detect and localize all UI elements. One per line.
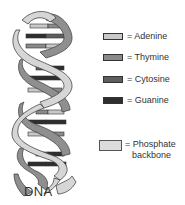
guanine-swatch bbox=[103, 97, 123, 104]
cytosine-swatch bbox=[103, 76, 123, 83]
legend-item-cytosine: = Cytosine bbox=[100, 73, 170, 85]
adenine-swatch bbox=[103, 33, 123, 40]
legend-item-phosphate-backbone: = Phosphate backbone bbox=[99, 139, 176, 161]
phosphate-backbone-swatch bbox=[99, 140, 122, 151]
phosphate-backbone-label: = Phosphate backbone bbox=[125, 139, 176, 161]
phosphate-label-line1: = Phosphate bbox=[125, 139, 176, 150]
phosphate-label-line2: backbone bbox=[125, 150, 176, 161]
guanine-label: = Guanine bbox=[127, 95, 169, 105]
legend-item-adenine: = Adenine bbox=[100, 30, 167, 42]
legend-item-thymine: = Thymine bbox=[100, 51, 169, 63]
thymine-label: = Thymine bbox=[127, 52, 169, 62]
adenine-label: = Adenine bbox=[127, 31, 167, 41]
legend-item-guanine: = Guanine bbox=[100, 94, 169, 106]
thymine-swatch bbox=[103, 54, 123, 61]
cytosine-label: = Cytosine bbox=[127, 74, 170, 84]
dna-double-helix-illustration bbox=[0, 0, 95, 205]
diagram-caption: DNA bbox=[24, 184, 52, 199]
